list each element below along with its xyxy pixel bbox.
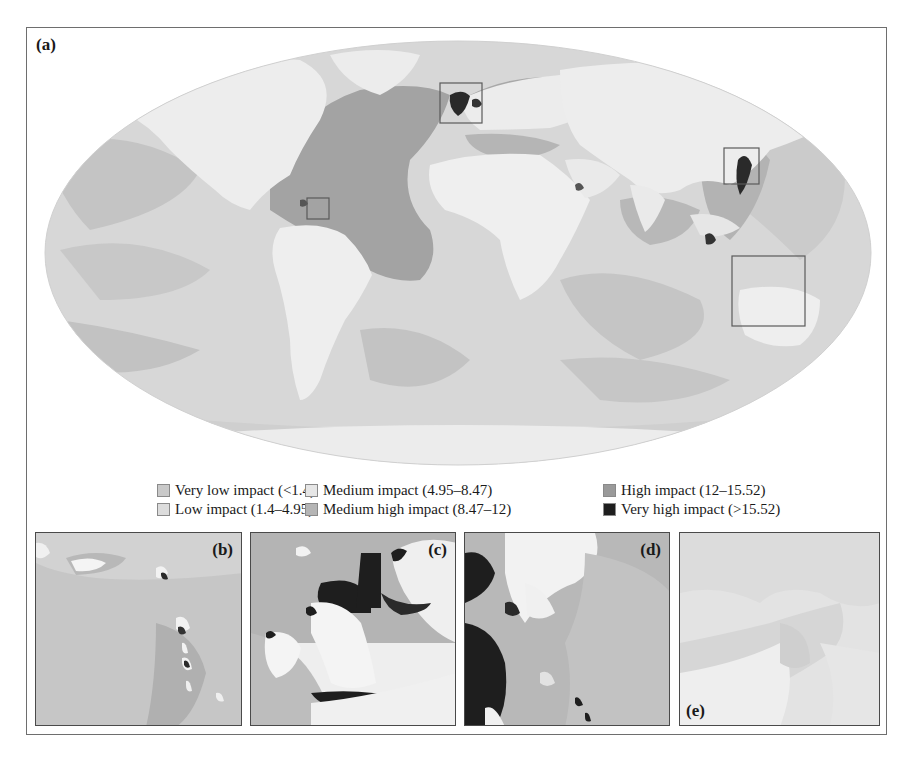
legend-item-very-high: Very high impact (>15.52): [603, 501, 780, 518]
legend-item-very-low: Very low impact (<1.4): [157, 482, 315, 499]
swatch-medium-high-icon: [305, 503, 318, 516]
inset-panel-d: (d): [464, 532, 670, 726]
swatch-very-low-icon: [157, 484, 170, 497]
inset-e-label: (e): [686, 702, 705, 719]
inset-panel-b: (b): [35, 532, 242, 726]
legend-item-medium: Medium impact (4.95–8.47): [305, 482, 492, 499]
legend-label: Medium high impact (8.47–12): [323, 501, 511, 518]
swatch-very-high-icon: [603, 503, 616, 516]
legend-label: Medium impact (4.95–8.47): [323, 482, 492, 499]
inset-panel-c: (c): [250, 532, 456, 726]
world-map: [0, 0, 918, 480]
legend: Very low impact (<1.4) Low impact (1.4–4…: [157, 482, 797, 522]
land-australia: [738, 287, 820, 347]
legend-item-high: High impact (12–15.52): [603, 482, 766, 499]
legend-item-low: Low impact (1.4–4.95): [157, 501, 313, 518]
land-antarctica: [120, 425, 800, 470]
swatch-high-icon: [603, 484, 616, 497]
legend-label: High impact (12–15.52): [621, 482, 766, 499]
inset-d-label: (d): [640, 541, 661, 558]
legend-item-medium-high: Medium high impact (8.47–12): [305, 501, 511, 518]
inset-c-label: (c): [428, 541, 447, 558]
legend-label: Very high impact (>15.52): [621, 501, 780, 518]
inset-panel-e: (e): [679, 532, 880, 726]
legend-label: Low impact (1.4–4.95): [175, 501, 313, 518]
inset-b-label: (b): [212, 541, 233, 558]
swatch-medium-icon: [305, 484, 318, 497]
legend-label: Very low impact (<1.4): [175, 482, 315, 499]
swatch-low-icon: [157, 503, 170, 516]
